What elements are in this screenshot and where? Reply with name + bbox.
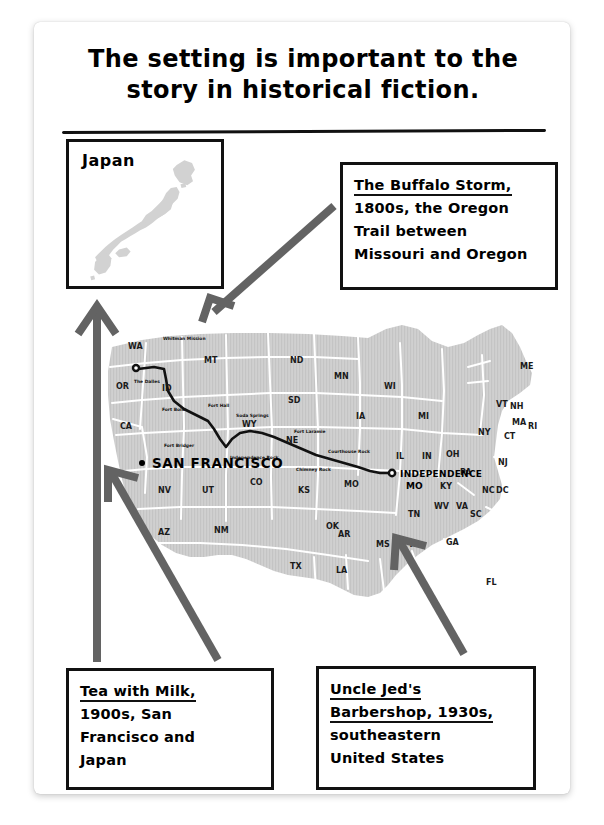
state-label: MO (344, 480, 359, 489)
state-label: MI (418, 412, 429, 421)
callout-line: Uncle Jed's (330, 678, 523, 701)
page-title-line-1: The setting is important to the (88, 45, 518, 73)
state-label: CT (504, 432, 516, 441)
callout-line: Francisco and (80, 726, 261, 749)
worksheet-page: The setting is important to the story in… (34, 22, 570, 794)
state-label: AL (410, 540, 421, 549)
callout-tea-with-milk: Tea with Milk, 1900s, San Francisco and … (66, 668, 274, 790)
state-label: IL (396, 452, 404, 461)
callout-buffalo-storm: The Buffalo Storm, 1800s, the Oregon Tra… (340, 162, 558, 290)
state-label: ME (520, 362, 533, 371)
state-label: UT (202, 486, 214, 495)
missouri-label: MO (406, 481, 423, 491)
state-label: KY (440, 482, 452, 491)
trail-label: Fort Bridger (164, 443, 195, 448)
state-label: SD (288, 396, 301, 405)
japan-inset-label: Japan (82, 151, 135, 170)
state-label: CA (120, 422, 133, 431)
state-label: MS (376, 540, 390, 549)
page-title-line-2: story in historical fiction. (58, 75, 548, 106)
callout-line: Barbershop, 1930s, (330, 701, 523, 724)
state-label: NV (158, 486, 172, 495)
state-label: GA (446, 538, 460, 547)
callout-line: United States (330, 747, 523, 770)
state-label: NJ (498, 458, 508, 467)
state-label: SC (470, 510, 482, 519)
state-label: RI (528, 422, 537, 431)
trail-label: Whitman Mission (163, 336, 206, 341)
state-label: AZ (158, 528, 170, 537)
state-label: OR (116, 382, 129, 391)
state-label: OH (446, 450, 460, 459)
state-label: FL (486, 578, 497, 587)
state-label: AR (338, 530, 350, 539)
state-label: MN (334, 372, 349, 381)
state-label: MT (204, 356, 218, 365)
callout-line: 1900s, San (80, 703, 261, 726)
independence-label: INDEPENDENCE (400, 469, 482, 479)
state-label: ND (290, 356, 304, 365)
japan-inset-box: Japan (66, 139, 224, 289)
title-divider (62, 129, 546, 134)
state-label: NH (510, 402, 523, 411)
san-francisco-dot (139, 460, 145, 466)
state-label: TX (290, 562, 302, 571)
state-label: KS (298, 486, 310, 495)
state-label: LA (336, 566, 348, 575)
state-label: WI (384, 382, 396, 391)
trail-label: Courthouse Rock (328, 449, 370, 454)
trail-label: Fort Hall (208, 403, 230, 408)
trail-label: The Dalles (134, 379, 160, 384)
callout-line: Missouri and Oregon (354, 243, 545, 266)
state-label: IN (422, 452, 432, 461)
state-label: WA (128, 342, 143, 351)
trail-label: Soda Springs (236, 413, 269, 418)
state-label: VA (456, 502, 469, 511)
state-label: MA (512, 418, 527, 427)
state-label: DC (496, 486, 509, 495)
trail-label: Fort Boise (162, 407, 187, 412)
state-label: IA (356, 412, 366, 421)
trail-label: Chimney Rock (296, 467, 331, 472)
callout-line: Trail between (354, 220, 545, 243)
state-label: CO (250, 478, 263, 487)
state-label: NC (482, 486, 495, 495)
state-label: WY (242, 420, 257, 429)
state-label: TN (408, 510, 420, 519)
united-states-map: Whitman Mission The Dalles Fort Boise Fo… (50, 307, 554, 637)
state-label: NE (286, 436, 298, 445)
callout-line: Japan (80, 749, 261, 772)
page-title: The setting is important to the story in… (58, 44, 548, 106)
state-label: WV (434, 502, 450, 511)
state-label: NM (214, 526, 229, 535)
san-francisco-label: SAN FRANCISCO (152, 455, 283, 471)
callout-uncle-jeds-barbershop: Uncle Jed's Barbershop, 1930s, southeast… (316, 666, 536, 790)
callout-line: The Buffalo Storm, (354, 174, 545, 197)
trail-label: Fort Laramie (294, 429, 326, 434)
callout-line: Tea with Milk, (80, 680, 261, 703)
callout-line: southeastern (330, 724, 523, 747)
state-label: NY (478, 428, 491, 437)
callout-line: 1800s, the Oregon (354, 197, 545, 220)
state-label: VT (496, 400, 508, 409)
state-label: ID (162, 384, 172, 393)
